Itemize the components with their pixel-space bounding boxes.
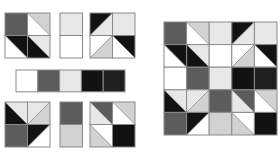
quilt-cell (60, 70, 82, 92)
quilt-cell (5, 102, 28, 125)
quilt-cell (187, 112, 210, 135)
quilt-cell (5, 125, 28, 148)
quilt-cell (209, 22, 232, 45)
quilt-cell (113, 102, 136, 125)
quilt-cell (187, 90, 210, 113)
quilt-cell (90, 125, 113, 148)
quilt-cell (90, 36, 113, 59)
quilt-cell (164, 67, 187, 90)
quilt-cell (90, 13, 113, 36)
quilt-cell (103, 70, 125, 92)
quilt-cell (90, 102, 113, 125)
quilt-cell (28, 13, 51, 36)
quilt-cell (60, 13, 83, 36)
color-swatch-strip (16, 70, 125, 92)
quilt-cell (187, 45, 210, 68)
quilt-cell (28, 36, 51, 59)
quilt-cell (113, 13, 136, 36)
quilt-cell (5, 36, 28, 59)
quilt-cell (232, 67, 255, 90)
quilt-cell (209, 112, 232, 135)
finished-block-5x5 (164, 22, 277, 135)
quilt-diagram (0, 0, 280, 154)
quilt-cell (113, 125, 136, 148)
quilt-cell (254, 90, 277, 113)
quilt-cell (28, 125, 51, 148)
quilt-cell (232, 112, 255, 135)
quilt-cell (28, 102, 51, 125)
quilt-cell (254, 67, 277, 90)
quilt-cell (81, 70, 103, 92)
quilt-cell (232, 90, 255, 113)
quilt-cell (164, 90, 187, 113)
quilt-cell (164, 112, 187, 135)
unit-top-right (90, 13, 135, 58)
quilt-cell (232, 45, 255, 68)
quilt-cell (60, 102, 83, 125)
quilt-cell (254, 22, 277, 45)
quilt-cell (209, 67, 232, 90)
unit-bottom-middle (60, 102, 83, 147)
quilt-cell (187, 67, 210, 90)
quilt-cell (187, 22, 210, 45)
quilt-cell (209, 90, 232, 113)
quilt-cell (5, 13, 28, 36)
quilt-cell (232, 22, 255, 45)
unit-top-middle (60, 13, 83, 58)
unit-bottom-right (90, 102, 135, 147)
quilt-cell (38, 70, 60, 92)
unit-top-left (5, 13, 50, 58)
quilt-cell (254, 112, 277, 135)
quilt-cell (254, 45, 277, 68)
quilt-cell (164, 45, 187, 68)
quilt-cell (209, 45, 232, 68)
unit-bottom-left (5, 102, 50, 147)
quilt-cell (16, 70, 38, 92)
quilt-cell (164, 22, 187, 45)
quilt-cell (60, 125, 83, 148)
quilt-cell (113, 36, 136, 59)
quilt-cell (60, 36, 83, 59)
